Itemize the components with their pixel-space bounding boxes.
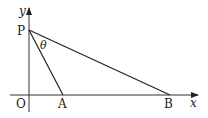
- point-b-label: B: [164, 97, 173, 111]
- point-a-label: A: [57, 97, 67, 111]
- x-axis-label: x: [190, 96, 197, 110]
- diagram-canvas: y x O P A B θ: [0, 0, 208, 118]
- y-axis-label: y: [18, 4, 26, 18]
- angle-theta-label: θ: [40, 39, 47, 52]
- segment-pb: [29, 30, 170, 95]
- origin-label: O: [16, 97, 26, 111]
- point-p-label: P: [17, 24, 25, 38]
